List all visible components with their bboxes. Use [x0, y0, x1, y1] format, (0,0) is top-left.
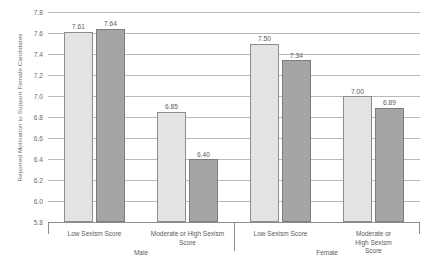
category-label: Low Sexism Score [254, 230, 308, 239]
category-label: Moderate or High SexismScore [350, 230, 397, 256]
y-axis-tick-label: 6.6 [34, 135, 43, 142]
bar [96, 29, 125, 222]
bar-value-label: 7.64 [104, 20, 117, 27]
y-axis-tick-label: 6.0 [34, 198, 43, 205]
bar-value-label: 7.50 [258, 35, 271, 42]
bar-value-label: 7.34 [290, 52, 303, 59]
bar-chart: Reported Motivation to Support Female Ca… [0, 0, 428, 275]
y-axis-tick-label: 6.4 [34, 156, 43, 163]
y-axis-tick-label: 7.4 [34, 51, 43, 58]
category-label: Moderate or High SexismScore [151, 230, 224, 247]
bar [375, 108, 404, 222]
group-label: Female [316, 249, 338, 256]
y-axis-tick-label: 6.2 [34, 177, 43, 184]
bar-value-label: 6.89 [383, 99, 396, 106]
y-axis-tick-label: 6.8 [34, 114, 43, 121]
category-axis: Low Sexism ScoreModerate or High SexismS… [48, 222, 420, 269]
y-axis-title: Reported Motivation to Support Female Ca… [16, 0, 23, 223]
group-label: Male [134, 249, 148, 256]
bar-value-label: 6.85 [165, 103, 178, 110]
bar [250, 44, 279, 223]
y-axis-tick-label: 7.0 [34, 93, 43, 100]
bar [157, 112, 186, 222]
bar [189, 159, 218, 222]
y-axis-tick-label: 5.8 [34, 219, 43, 226]
bar [343, 96, 372, 222]
category-label: Low Sexism Score [68, 230, 122, 239]
y-axis-tick-label: 7.8 [34, 9, 43, 16]
bar [282, 60, 311, 222]
grid-line [48, 12, 420, 13]
category-divider [234, 222, 235, 251]
y-axis-tick-label: 7.6 [34, 30, 43, 37]
bar-value-label: 6.40 [197, 151, 210, 158]
y-axis-tick-label: 7.2 [34, 72, 43, 79]
plot-area: 7.87.67.47.27.06.86.66.46.26.05.87.617.6… [48, 12, 420, 222]
bar-value-label: 7.61 [72, 23, 85, 30]
bar [64, 32, 93, 222]
bar-value-label: 7.00 [351, 88, 364, 95]
